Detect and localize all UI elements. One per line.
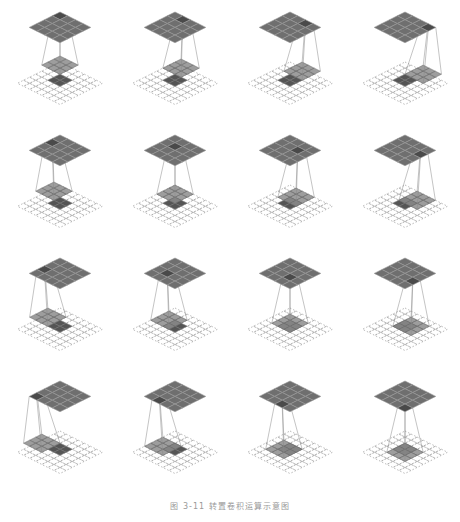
panel-step-9 <box>0 246 115 369</box>
transposed-convolution-grid <box>0 0 460 492</box>
panel-step-3 <box>230 0 345 123</box>
panel-step-8 <box>345 123 460 246</box>
panel-step-2 <box>115 0 230 123</box>
panel-step-16 <box>345 369 460 492</box>
panel-step-15 <box>230 369 345 492</box>
panel-step-13 <box>0 369 115 492</box>
panel-step-4 <box>345 0 460 123</box>
panel-step-1 <box>0 0 115 123</box>
panel-step-14 <box>115 369 230 492</box>
panel-step-6 <box>115 123 230 246</box>
panel-step-11 <box>230 246 345 369</box>
panel-step-7 <box>230 123 345 246</box>
panel-step-10 <box>115 246 230 369</box>
figure-caption: 图 3-11 转置卷积运算示意图 <box>0 500 460 511</box>
panel-step-12 <box>345 246 460 369</box>
panel-step-5 <box>0 123 115 246</box>
